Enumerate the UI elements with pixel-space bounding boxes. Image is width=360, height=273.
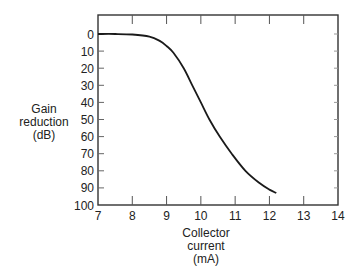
x-tick-label: 7	[95, 209, 102, 223]
y-tick-label: 70	[81, 147, 95, 161]
x-tick-label: 10	[194, 209, 208, 223]
y-tick-label: 80	[81, 164, 95, 178]
x-tick-label: 12	[263, 209, 277, 223]
y-tick-label: 100	[74, 199, 94, 213]
y-axis-ticks: 0102030405060708090100	[74, 28, 338, 213]
y-axis-label-line: reduction	[19, 115, 68, 129]
y-axis-label-line: (dB)	[33, 128, 56, 142]
x-axis-label-line: Collector	[182, 226, 229, 240]
gain-reduction-chart: 7891011121314 0102030405060708090100 Gai…	[0, 0, 360, 273]
x-tick-label: 9	[163, 209, 170, 223]
y-axis-label: Gainreduction(dB)	[19, 102, 68, 142]
y-tick-label: 30	[81, 79, 95, 93]
y-axis-label-line: Gain	[31, 102, 56, 116]
y-tick-label: 10	[81, 45, 95, 59]
x-tick-label: 8	[129, 209, 136, 223]
y-tick-label: 0	[87, 28, 94, 42]
y-tick-label: 40	[81, 96, 95, 110]
gain-reduction-curve	[98, 34, 276, 193]
x-tick-label: 14	[331, 209, 345, 223]
y-tick-label: 50	[81, 113, 95, 127]
y-tick-label: 60	[81, 130, 95, 144]
y-tick-label: 20	[81, 62, 95, 76]
x-axis-label-line: (mA)	[193, 252, 219, 266]
x-axis-label-line: current	[187, 239, 225, 253]
x-axis-ticks: 7891011121314	[95, 15, 345, 223]
x-tick-label: 11	[229, 209, 242, 223]
x-tick-label: 13	[297, 209, 311, 223]
x-axis-label: Collectorcurrent(mA)	[182, 226, 229, 266]
y-tick-label: 90	[81, 181, 95, 195]
plot-frame	[98, 15, 338, 205]
